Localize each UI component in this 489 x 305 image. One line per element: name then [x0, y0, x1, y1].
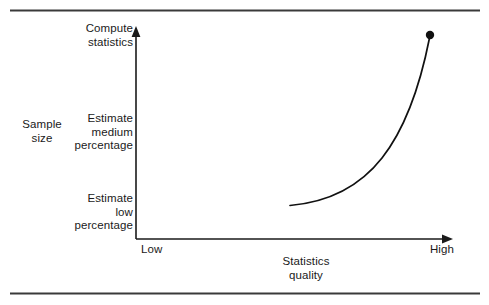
- y-tick-label-bottom: Estimate low percentage: [13, 192, 133, 233]
- x-tick-label-high: High: [404, 243, 454, 257]
- figure-canvas: Compute statistics Estimate medium perce…: [0, 0, 489, 305]
- x-axis-title: Statistics quality: [246, 255, 366, 282]
- y-axis-title: Sample size: [14, 118, 70, 145]
- x-tick-label-low: Low: [141, 243, 191, 257]
- data-endpoint-marker: [426, 31, 434, 39]
- data-curve-series-1: [290, 38, 430, 206]
- y-tick-label-top: Compute statistics: [13, 22, 133, 49]
